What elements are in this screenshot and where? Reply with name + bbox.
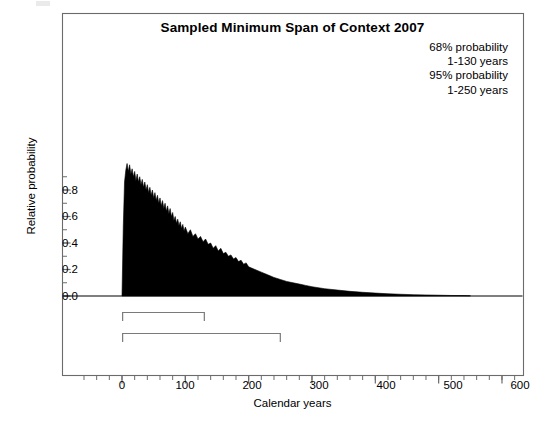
y-tick-label-0-2: 0.2: [44, 263, 78, 275]
y-tick-label-0-4: 0.4: [44, 237, 78, 249]
x-axis-label: Calendar years: [62, 397, 523, 409]
y-tick-label-0-6: 0.6: [44, 210, 78, 222]
annotation-line-95-probability: 95% probability: [429, 68, 508, 82]
chart-title: Sampled Minimum Span of Context 2007: [62, 20, 523, 35]
chart-figure: Sampled Minimum Span of Context 2007 68%…: [0, 0, 545, 424]
x-tick-label-100: 100: [163, 379, 207, 391]
annotation-line-68-probability: 68% probability: [429, 40, 508, 54]
annotation-line-95-range: 1-250 years: [429, 83, 508, 97]
x-tick-label-400: 400: [364, 379, 408, 391]
x-tick-label-500: 500: [431, 379, 475, 391]
y-tick-label-0-8: 0.8: [44, 184, 78, 196]
probability-annotation: 68% probability 1-130 years 95% probabil…: [429, 40, 508, 97]
annotation-line-68-range: 1-130 years: [429, 54, 508, 68]
x-tick-label-300: 300: [297, 379, 341, 391]
y-axis-label: Relative probability: [25, 106, 37, 266]
range-brackets: [123, 313, 281, 343]
x-tick-label-600: 600: [498, 379, 542, 391]
y-tick-label-0-0: 0.0: [44, 290, 78, 302]
distribution-area: [64, 164, 523, 297]
x-tick-label-0: 0: [100, 379, 144, 391]
x-tick-label-200: 200: [230, 379, 274, 391]
